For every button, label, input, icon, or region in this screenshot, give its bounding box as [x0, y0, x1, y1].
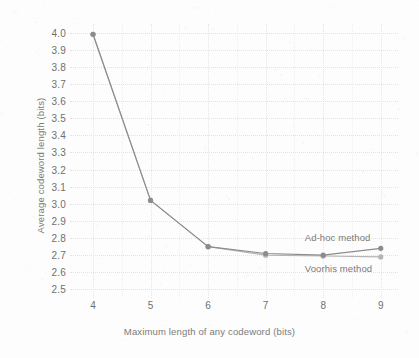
x-tick-label: 8 — [310, 300, 336, 311]
y-tick-label: 2.6 — [36, 267, 66, 278]
series-line — [93, 34, 381, 255]
y-tick-label: 3.7 — [36, 78, 66, 89]
data-point-marker — [148, 198, 153, 203]
x-tick-label: 6 — [195, 300, 221, 311]
y-tick-label: 3.4 — [36, 130, 66, 141]
y-tick-label: 2.7 — [36, 250, 66, 261]
y-tick-label: 2.9 — [36, 215, 66, 226]
y-tick-label: 3.8 — [36, 61, 66, 72]
series-label-ad-hoc: Ad-hoc method — [305, 232, 371, 243]
y-tick-label: 3.9 — [36, 44, 66, 55]
y-tick-label: 3.6 — [36, 96, 66, 107]
x-tick-label: 9 — [368, 300, 394, 311]
x-tick-label: 7 — [253, 300, 279, 311]
y-tick-label: 3.3 — [36, 147, 66, 158]
y-tick-label: 2.8 — [36, 233, 66, 244]
y-tick-label: 3.1 — [36, 181, 66, 192]
series-label-voorhis: Voorhis method — [305, 263, 372, 274]
x-tick-label: 5 — [138, 300, 164, 311]
data-point-marker — [321, 253, 326, 258]
x-tick-label: 4 — [80, 300, 106, 311]
x-axis-title: Maximum length of any codeword (bits) — [0, 326, 419, 337]
data-point-marker — [206, 244, 211, 249]
chart-figure: Average codeword length (bits) 4.03.93.8… — [0, 0, 419, 358]
y-tick-label: 3.0 — [36, 198, 66, 209]
y-tick-label: 3.2 — [36, 164, 66, 175]
data-series-layer — [70, 24, 398, 298]
plot-area: Ad-hoc methodVoorhis method — [70, 24, 398, 298]
x-axis-tick-labels: 456789 — [0, 300, 419, 316]
series-line — [93, 34, 381, 257]
y-tick-label: 2.5 — [36, 284, 66, 295]
data-point-marker — [90, 32, 95, 37]
data-point-marker — [263, 251, 268, 256]
y-tick-label: 4.0 — [36, 27, 66, 38]
data-point-marker — [378, 254, 383, 259]
data-point-marker — [378, 246, 383, 251]
y-tick-label: 3.5 — [36, 113, 66, 124]
